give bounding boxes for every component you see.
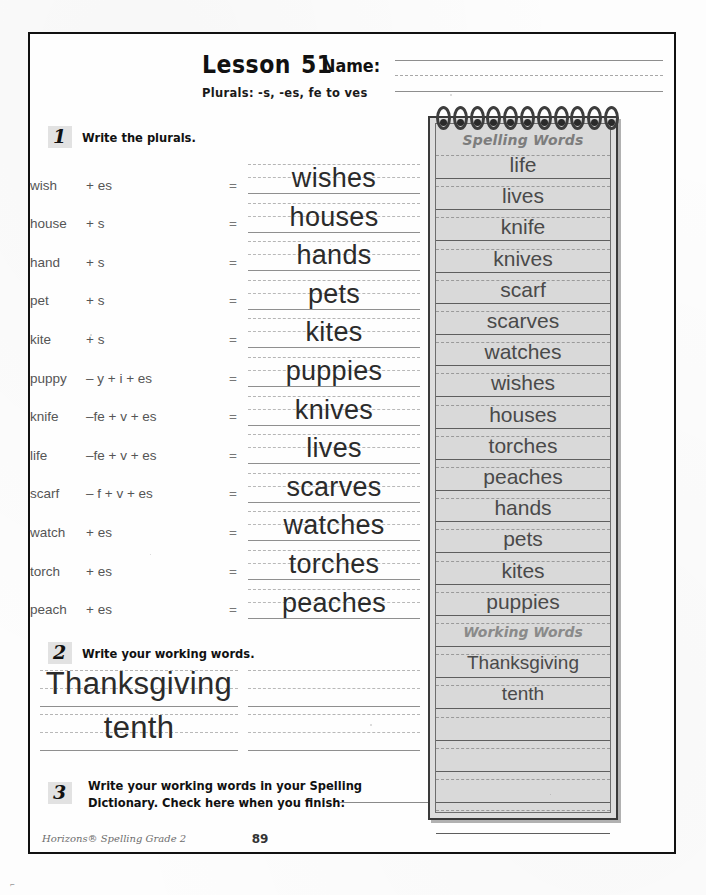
equation-operations: –fe + v + es xyxy=(86,409,157,424)
notebook-word-text: life xyxy=(436,153,610,177)
spiral-ring xyxy=(486,106,501,130)
answer-text: knives xyxy=(248,395,420,426)
notebook-word-row: hands xyxy=(436,495,610,526)
rule-base xyxy=(436,272,610,273)
rule-base xyxy=(436,802,610,803)
answer-writing-row[interactable]: knives xyxy=(248,394,420,433)
spiral-ring xyxy=(503,106,518,130)
answer-writing-row[interactable]: scarves xyxy=(248,471,420,510)
equation-row: pet+ s= xyxy=(30,282,245,320)
working-word-text: Thanksgiving xyxy=(40,666,238,702)
scan-speck xyxy=(450,94,452,96)
rule-base xyxy=(40,750,238,751)
equation-base-word: puppy xyxy=(30,371,86,386)
scan-speck xyxy=(90,334,92,336)
rule-base xyxy=(436,334,610,335)
notebook-word-text: Thanksgiving xyxy=(436,652,610,674)
equation-equals-sign: = xyxy=(229,409,237,424)
equation-base-word: hand xyxy=(30,255,86,270)
scan-edge-mark: ⌐ xyxy=(10,880,15,889)
notebook-word-row: Thanksgiving xyxy=(436,651,610,682)
equation-row: watch+ es= xyxy=(30,513,245,551)
notebook-word-text: kites xyxy=(436,559,610,583)
working-word-blank-row[interactable] xyxy=(248,670,420,714)
rule-base xyxy=(436,428,610,429)
section-3-marker: 3 xyxy=(48,782,72,804)
equation-equals-sign: = xyxy=(229,293,237,308)
answer-writing-row[interactable]: hands xyxy=(248,239,420,278)
spiral-ring xyxy=(537,106,552,130)
rule-base xyxy=(436,303,610,304)
rule-top xyxy=(436,748,610,749)
answer-writing-row[interactable]: kites xyxy=(248,316,420,355)
notebook-word-row: knives xyxy=(436,246,610,277)
equation-equals-sign: = xyxy=(229,216,237,231)
notebook-word-row xyxy=(436,745,610,776)
rule-base xyxy=(436,708,610,709)
equation-operations: + es xyxy=(86,525,112,540)
rule-base xyxy=(436,178,610,179)
equation-row: house+ s= xyxy=(30,205,245,243)
notebook-word-row: tenth xyxy=(436,682,610,713)
equation-base-word: kite xyxy=(30,332,86,347)
answer-writing-row[interactable]: lives xyxy=(248,432,420,471)
equation-base-word: knife xyxy=(30,409,86,424)
equation-equals-sign: = xyxy=(229,178,237,193)
rule-base xyxy=(436,646,610,647)
answer-writing-row[interactable]: torches xyxy=(248,548,420,587)
rule-top xyxy=(248,714,420,715)
equation-row: knife–fe + v + es= xyxy=(30,398,245,436)
working-word-row[interactable]: Thanksgiving xyxy=(40,670,238,714)
notebook-word-row: life xyxy=(436,152,610,183)
answer-text: puppies xyxy=(248,356,420,387)
equation-equals-sign: = xyxy=(229,486,237,501)
notebook-section-title-row: Working Words xyxy=(436,620,610,651)
rule-base xyxy=(248,750,420,751)
notebook-word-text: pets xyxy=(436,527,610,551)
answer-text: torches xyxy=(248,549,420,580)
name-label: Name: xyxy=(322,55,380,76)
rule-base xyxy=(40,706,238,707)
equation-base-word: watch xyxy=(30,525,86,540)
name-line-top xyxy=(395,60,663,61)
answer-writing-row[interactable]: wishes xyxy=(248,162,420,201)
answer-text: peaches xyxy=(248,588,420,619)
notebook-word-row: torches xyxy=(436,433,610,464)
working-word-row[interactable]: tenth xyxy=(40,714,238,758)
section-2-instruction: Write your working words. xyxy=(82,646,255,663)
equation-base-word: house xyxy=(30,216,86,231)
working-word-blank-row[interactable] xyxy=(248,714,420,758)
answer-writing-row[interactable]: watches xyxy=(248,509,420,548)
rule-base xyxy=(436,240,610,241)
section-1-instruction: Write the plurals. xyxy=(82,130,196,147)
notebook-word-row xyxy=(436,714,610,745)
equation-base-word: life xyxy=(30,448,86,463)
rule-base xyxy=(436,771,610,772)
equation-row: life–fe + v + es= xyxy=(30,436,245,474)
answer-writing-row[interactable]: pets xyxy=(248,278,420,317)
section-3-line-1: Write your working words in your Spellin… xyxy=(88,778,362,793)
spiral-ring xyxy=(570,106,585,130)
notebook-title: Spelling Words xyxy=(430,132,616,148)
notebook-word-text: knives xyxy=(436,247,610,271)
answer-writing-row[interactable]: peaches xyxy=(248,587,420,626)
equation-base-word: torch xyxy=(30,564,86,579)
answer-writing-row[interactable]: houses xyxy=(248,201,420,240)
spiral-binding xyxy=(430,106,616,132)
rule-mid xyxy=(248,688,420,689)
answer-text: kites xyxy=(248,317,420,348)
notebook-word-row: houses xyxy=(436,402,610,433)
equation-base-word: pet xyxy=(30,293,86,308)
rule-base xyxy=(436,209,610,210)
notebook-word-text: tenth xyxy=(436,683,610,705)
rule-top xyxy=(436,779,610,780)
spiral-ring xyxy=(520,106,535,130)
name-line-base[interactable] xyxy=(395,91,663,92)
equation-row: scarf– f + v + es= xyxy=(30,475,245,513)
rule-base xyxy=(436,396,610,397)
equation-operations: + s xyxy=(86,293,104,308)
answer-writing-row[interactable]: puppies xyxy=(248,355,420,394)
working-word-text: tenth xyxy=(40,710,238,746)
notebook-word-row: scarves xyxy=(436,308,610,339)
scan-speck xyxy=(280,474,281,475)
